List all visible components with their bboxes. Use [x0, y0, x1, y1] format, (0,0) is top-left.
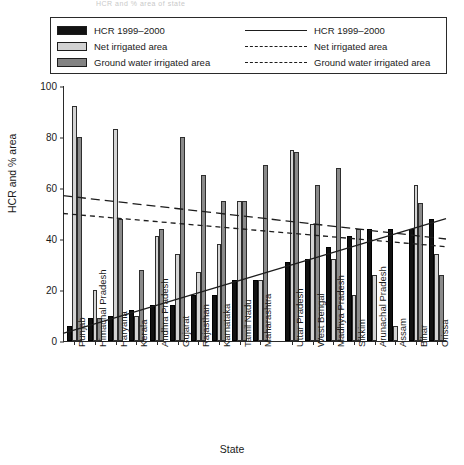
y-axis-tick: 80: [46, 132, 64, 143]
legend-label-net-irrigated: Net irrigated area: [94, 41, 167, 52]
legend-item-hcr-bar: HCR 1999–2000: [57, 22, 210, 38]
x-axis-tick: [437, 341, 438, 345]
x-axis-tick: [178, 341, 179, 345]
trend-line: [63, 214, 446, 247]
legend-label-hcr: HCR 1999–2000: [94, 25, 165, 36]
legend-swatch-net-irrigated-icon: [57, 42, 87, 51]
x-axis-tick-label: Kerala: [139, 320, 149, 347]
x-axis-tick-label: Himachal Pradesh: [98, 269, 108, 347]
x-axis-tick: [95, 341, 96, 345]
legend-line-dashed-long-icon: [245, 42, 307, 51]
y-axis-tick: 20: [46, 285, 64, 296]
x-axis-tick: [240, 341, 241, 345]
x-axis-tick-label: Punjab: [77, 317, 87, 347]
x-axis-tick-label: Bihar: [419, 325, 429, 347]
legend-label-hcr-line: HCR 1999–2000: [314, 25, 385, 36]
trend-line-overlay: [63, 86, 446, 341]
x-axis-tick: [354, 341, 355, 345]
legend-bar-column: HCR 1999–2000 Net irrigated area Ground …: [57, 22, 210, 70]
x-axis-tick-label: Haryana: [119, 311, 129, 347]
x-axis-tick-label: Maharashtra: [263, 294, 273, 347]
x-axis-tick: [313, 341, 314, 345]
legend-item-ground-water-bar: Ground water irrigated area: [57, 54, 210, 70]
trend-line: [63, 196, 446, 239]
legend-item-net-irrigated-line: Net irrigated area: [245, 38, 430, 54]
x-axis-tick-label: Assam: [398, 318, 408, 347]
x-axis-tick-label: Orissa: [440, 320, 450, 347]
legend-item-hcr-line: HCR 1999–2000: [245, 22, 430, 38]
x-axis-tick-label: Gujarat: [181, 316, 191, 347]
x-axis-tick: [219, 341, 220, 345]
x-axis-tick-label: Madhya Pradesh: [336, 275, 346, 347]
legend-label-net-irrigated-line: Net irrigated area: [314, 41, 387, 52]
legend-line-solid-icon: [245, 26, 307, 35]
x-axis-tick: [157, 341, 158, 345]
x-axis-tick-label: Karnataka: [222, 304, 232, 347]
y-axis-tick: 100: [40, 81, 64, 92]
chart-legend: HCR 1999–2000 Net irrigated area Ground …: [50, 17, 447, 74]
x-axis-tick-label: Andhra Pradesh: [160, 278, 170, 347]
x-axis-tick-label: West Bengal: [316, 293, 326, 347]
x-axis-tick: [292, 341, 293, 345]
legend-swatch-ground-water-icon: [57, 58, 87, 67]
legend-swatch-hcr-icon: [57, 26, 87, 35]
legend-line-column: HCR 1999–2000 Net irrigated area Ground …: [245, 22, 430, 70]
chart-figure: HCR and % area of state HCR 1999–2000 Ne…: [0, 0, 464, 465]
y-axis-tick: 40: [46, 234, 64, 245]
x-axis-tick-label: Sikkim: [357, 319, 367, 347]
x-axis-tick-label: Uttar Pradesh: [295, 288, 305, 347]
legend-item-ground-water-line: Ground water irrigated area: [245, 54, 430, 70]
x-axis-tick-label: Rajasthan: [201, 304, 211, 347]
y-axis-label: HCR and % area: [6, 134, 18, 213]
faint-header-text: HCR and % area of state: [96, 0, 316, 12]
legend-item-net-irrigated-bar: Net irrigated area: [57, 38, 210, 54]
x-axis-tick-label: Arunachal Pradesh: [378, 266, 388, 347]
legend-label-ground-water: Ground water irrigated area: [94, 57, 210, 68]
x-axis-label: State: [0, 443, 464, 455]
x-axis-tick: [116, 341, 117, 345]
x-axis-tick: [375, 341, 376, 345]
x-axis-tick: [416, 341, 417, 345]
x-axis-tick-label: Tamil Nadu: [243, 299, 253, 347]
y-axis-tick: 60: [46, 183, 64, 194]
legend-line-dashed-short-icon: [245, 58, 307, 67]
legend-label-ground-water-line: Ground water irrigated area: [314, 57, 430, 68]
